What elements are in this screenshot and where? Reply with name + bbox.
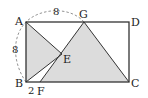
- label-d: D: [131, 16, 140, 29]
- label-c: C: [131, 77, 139, 90]
- measure-ag: 8: [53, 6, 59, 17]
- label-e: E: [63, 53, 71, 66]
- measure-bf: 2: [28, 85, 34, 96]
- label-f: F: [37, 85, 45, 98]
- label-g: G: [79, 8, 88, 21]
- measure-ab: 8: [12, 44, 18, 55]
- label-a: A: [14, 15, 24, 28]
- label-b: B: [15, 77, 23, 90]
- geometry-diagram: A B C D E F G 8 8 2: [0, 0, 148, 98]
